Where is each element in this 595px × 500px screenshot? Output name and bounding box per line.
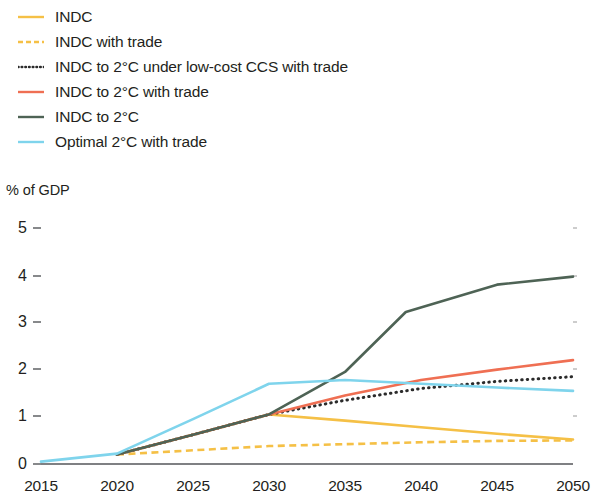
y-tick-label: 2 xyxy=(5,360,27,378)
series-line-indc-with-trade xyxy=(117,440,573,454)
x-tick-label: 2040 xyxy=(391,477,451,495)
y-tick-label: 5 xyxy=(5,219,27,237)
x-tick-label: 2045 xyxy=(467,477,527,495)
x-tick-label: 2025 xyxy=(163,477,223,495)
y-tick-label: 3 xyxy=(5,313,27,331)
y-tick-label: 4 xyxy=(5,267,27,285)
x-tick-label: 2030 xyxy=(239,477,299,495)
series-line-indc-to-2-c-with-trade xyxy=(117,360,573,454)
x-tick-label: 2015 xyxy=(11,477,71,495)
series-line-indc xyxy=(117,414,573,454)
series-line-indc-to-2-c xyxy=(117,277,573,455)
x-tick-label: 2050 xyxy=(543,477,595,495)
y-tick-label: 0 xyxy=(5,455,27,473)
x-tick-label: 2020 xyxy=(87,477,147,495)
y-tick-label: 1 xyxy=(5,407,27,425)
x-tick-label: 2035 xyxy=(315,477,375,495)
